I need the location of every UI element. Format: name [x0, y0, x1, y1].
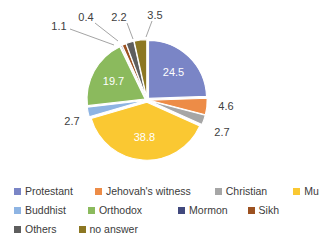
legend-item-christian[interactable]: Christian: [215, 182, 267, 201]
pie-svg: 24.54.62.738.82.719.70.41.12.23.5: [0, 0, 319, 180]
leader-line-mormon: [95, 23, 118, 41]
chart-legend: ProtestantJehovah's witnessChristianMusl…: [0, 180, 319, 247]
legend-label-muslim: Muslim: [304, 186, 319, 197]
leader-line-sikh: [70, 29, 114, 45]
legend-label-christian: Christian: [226, 186, 267, 197]
data-label-sikh: 1.1: [51, 20, 66, 32]
leader-line-others: [127, 23, 133, 39]
data-label-no-answer: 3.5: [147, 9, 162, 21]
legend-item-no-answer[interactable]: no answer: [79, 220, 138, 239]
legend-label-jehovah-s-witness: Jehovah's witness: [106, 186, 191, 197]
legend-swatch-sikh: [248, 207, 255, 214]
legend-label-mormon: Mormon: [189, 205, 228, 216]
legend-label-others: Others: [25, 224, 57, 235]
legend-item-buddhist[interactable]: Buddhist: [14, 201, 66, 220]
legend-swatch-protestant: [14, 188, 21, 195]
legend-label-orthodox: Orthodox: [99, 205, 142, 216]
legend-row-1: ProtestantJehovah's witnessChristianMusl…: [14, 182, 313, 201]
legend-item-protestant[interactable]: Protestant: [14, 182, 73, 201]
data-label-protestant: 24.5: [163, 66, 184, 78]
legend-swatch-jehovah-s-witness: [95, 188, 102, 195]
legend-item-others[interactable]: Others: [14, 220, 57, 239]
pie-plot-area: 24.54.62.738.82.719.70.41.12.23.5: [0, 0, 319, 180]
legend-swatch-orthodox: [88, 207, 95, 214]
leader-line-no-answer: [146, 21, 152, 37]
legend-label-buddhist: Buddhist: [25, 205, 66, 216]
legend-item-sikh[interactable]: Sikh: [248, 201, 279, 220]
legend-item-orthodox[interactable]: Orthodox: [88, 201, 142, 220]
pie-chart: 24.54.62.738.82.719.70.41.12.23.5 Protes…: [0, 0, 319, 247]
data-label-jehovah-s-witness: 4.6: [218, 100, 233, 112]
legend-label-no-answer: no answer: [90, 224, 138, 235]
data-label-buddhist: 2.7: [64, 115, 79, 127]
legend-swatch-mormon: [178, 207, 185, 214]
legend-label-sikh: Sikh: [259, 205, 279, 216]
legend-label-protestant: Protestant: [25, 186, 73, 197]
legend-row-2: BuddhistOrthodoxMormonSikh: [14, 201, 313, 220]
legend-swatch-others: [14, 226, 21, 233]
legend-item-muslim[interactable]: Muslim: [293, 182, 319, 201]
legend-swatch-no-answer: [79, 226, 86, 233]
data-label-mormon: 0.4: [78, 11, 93, 23]
data-label-muslim: 38.8: [134, 131, 155, 143]
legend-item-jehovah-s-witness[interactable]: Jehovah's witness: [95, 182, 191, 201]
legend-row-3: Othersno answer: [14, 220, 313, 239]
data-label-orthodox: 19.7: [103, 75, 124, 87]
data-label-others: 2.2: [111, 11, 126, 23]
data-label-christian: 2.7: [214, 126, 229, 138]
legend-swatch-christian: [215, 188, 222, 195]
legend-swatch-muslim: [293, 188, 300, 195]
legend-item-mormon[interactable]: Mormon: [178, 201, 228, 220]
legend-swatch-buddhist: [14, 207, 21, 214]
